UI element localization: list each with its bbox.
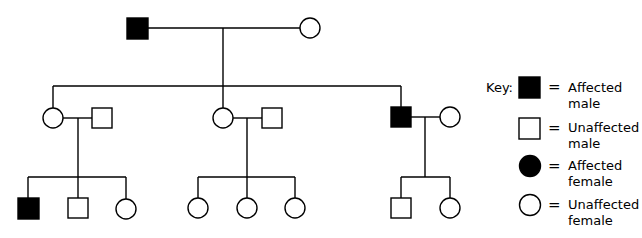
key-equals: = <box>548 80 561 95</box>
individual-II-2-unaffected-male <box>92 108 112 128</box>
individual-II-6-unaffected-female <box>440 107 460 127</box>
key-affected-female-icon <box>520 156 541 177</box>
key-unaffected-female-icon <box>520 195 541 216</box>
key-line1: Unaffected <box>568 197 639 213</box>
key-line2: female <box>568 213 639 229</box>
key-symbols <box>519 77 541 216</box>
individual-I-2-unaffected-female <box>300 18 320 38</box>
family-II-5 <box>391 107 460 218</box>
individual-II-5-affected-male <box>391 107 411 127</box>
key-line2: male <box>568 136 639 152</box>
individual-III-7-unaffected-male <box>391 198 411 218</box>
key-item-affected-male: Affected male <box>568 80 622 112</box>
individual-III-1-affected-male <box>18 198 39 219</box>
generation-1 <box>127 18 320 86</box>
key-line2: male <box>568 96 622 112</box>
key-line1: Unaffected <box>568 120 639 136</box>
individual-III-3-unaffected-female <box>116 199 136 219</box>
family-II-3 <box>188 108 305 218</box>
individual-II-4-unaffected-male <box>262 108 282 128</box>
individual-III-2-unaffected-male <box>68 198 88 218</box>
individual-II-3-unaffected-female <box>213 108 233 128</box>
key-item-unaffected-female: Unaffected female <box>568 197 639 229</box>
key-equals: = <box>548 121 561 136</box>
key-affected-male-icon <box>519 77 540 98</box>
key-title: Key: <box>486 80 513 95</box>
key-line1: Affected <box>568 80 622 96</box>
pedigree-chart <box>0 0 642 238</box>
individual-III-4-unaffected-female <box>188 198 208 218</box>
key-line1: Affected <box>568 158 622 174</box>
individual-III-5-unaffected-female <box>237 198 257 218</box>
key-line2: female <box>568 174 622 190</box>
individual-I-1-affected-male <box>127 18 148 39</box>
individual-II-1-unaffected-female <box>43 108 63 128</box>
key-unaffected-male-icon <box>519 118 540 139</box>
key-item-affected-female: Affected female <box>568 158 622 190</box>
key-equals: = <box>548 198 561 213</box>
key-item-unaffected-male: Unaffected male <box>568 120 639 152</box>
family-II-1 <box>18 108 136 219</box>
individual-III-6-unaffected-female <box>285 198 305 218</box>
key-equals: = <box>548 159 561 174</box>
individual-III-8-unaffected-female <box>440 198 460 218</box>
